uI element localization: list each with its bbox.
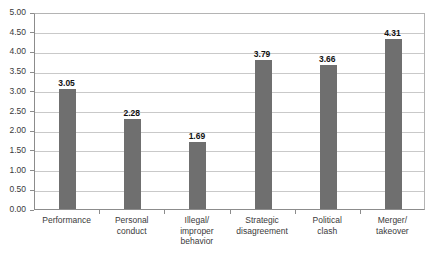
gridline: [35, 191, 424, 192]
x-axis-tick-mark: [99, 210, 100, 214]
y-axis-tick-label: 1.50: [0, 146, 26, 155]
y-axis-tick-mark: [30, 32, 34, 33]
bar[interactable]: [320, 65, 337, 209]
y-axis-tick-label: 4.00: [0, 47, 26, 56]
x-axis-tick-mark: [164, 210, 165, 214]
y-axis-tick-mark: [30, 131, 34, 132]
y-axis-tick-mark: [30, 13, 34, 14]
y-axis-tick-label: 3.00: [0, 87, 26, 96]
y-axis-tick-label: 0.50: [0, 185, 26, 194]
bar[interactable]: [124, 119, 141, 209]
x-axis-category-label: Personal conduct: [99, 215, 164, 236]
y-axis-tick-label: 5.00: [0, 8, 26, 17]
bar[interactable]: [59, 89, 76, 209]
y-axis-tick-label: 0.00: [0, 205, 26, 214]
gridline: [35, 151, 424, 152]
bar[interactable]: [385, 39, 402, 209]
y-axis-tick-mark: [30, 170, 34, 171]
bar-value-label: 4.31: [372, 29, 412, 38]
x-axis-category-label: Merger/ takeover: [360, 215, 425, 236]
bar-value-label: 2.28: [112, 109, 152, 118]
y-axis-tick-label: 3.50: [0, 67, 26, 76]
gridline: [35, 132, 424, 133]
gridline: [35, 92, 424, 93]
y-axis-tick-mark: [30, 210, 34, 211]
y-axis-tick-label: 2.50: [0, 107, 26, 116]
y-axis-tick-label: 4.50: [0, 28, 26, 37]
gridline: [35, 171, 424, 172]
y-axis-tick-mark: [30, 111, 34, 112]
y-axis-tick-mark: [30, 190, 34, 191]
bar[interactable]: [255, 60, 272, 209]
y-axis-tick-label: 1.00: [0, 166, 26, 175]
x-axis-category-label: Strategic disagreement: [230, 215, 295, 236]
x-axis-category-label: Political clash: [295, 215, 360, 236]
gridline: [35, 112, 424, 113]
y-axis-tick-mark: [30, 52, 34, 53]
bar-value-label: 3.05: [47, 79, 87, 88]
x-axis-tick-mark: [230, 210, 231, 214]
y-axis-tick-mark: [30, 91, 34, 92]
x-axis-category-label: Illegal/ improper behavior: [164, 215, 229, 247]
y-axis-tick-label: 2.00: [0, 126, 26, 135]
gridline: [35, 73, 424, 74]
x-axis-category-label: Performance: [34, 215, 99, 226]
bar[interactable]: [189, 142, 206, 209]
bar-value-label: 1.69: [177, 132, 217, 141]
y-axis-tick-mark: [30, 72, 34, 73]
gridline: [35, 33, 424, 34]
bar-chart: 0.000.501.001.502.002.503.003.504.004.50…: [0, 0, 433, 258]
plot-area: [34, 13, 425, 210]
gridline: [35, 53, 424, 54]
x-axis-tick-mark: [360, 210, 361, 214]
bar-value-label: 3.66: [307, 55, 347, 64]
x-axis-tick-mark: [295, 210, 296, 214]
bar-value-label: 3.79: [242, 50, 282, 59]
y-axis-tick-mark: [30, 150, 34, 151]
